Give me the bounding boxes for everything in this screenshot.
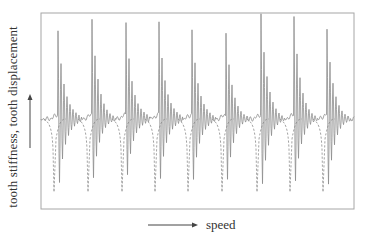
y-axis-label: tooth stiffness, tooth displacement	[3, 6, 23, 228]
figure: tooth stiffness, tooth displacement spee…	[0, 0, 366, 243]
x-axis-label: speed	[206, 217, 236, 233]
waveform-group	[41, 14, 354, 192]
y-arrow-icon	[28, 94, 33, 148]
x-arrow-icon	[148, 223, 198, 228]
y-axis-label-text: tooth stiffness, tooth displacement	[5, 26, 21, 208]
plot-area	[0, 0, 366, 243]
